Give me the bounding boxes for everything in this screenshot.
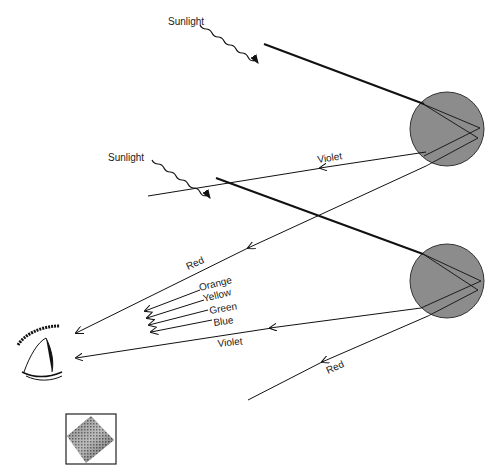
label-blue: Blue [213,314,235,328]
label-red-upper: Red [184,254,205,272]
sunlight-ray-mid [152,160,423,254]
red-ray-upper [248,166,426,248]
label-sunlight-mid: Sunlight [108,152,144,163]
label-green: Green [208,300,237,316]
label-red-lower: Red [324,358,345,376]
sunlight-ray-top [200,25,424,104]
observer-eye-icon [18,326,62,380]
label-sunlight-top: Sunlight [168,16,204,27]
label-violet-upper: Violet [317,150,343,165]
label-violet-lower: Violet [217,335,243,349]
raindrop-lower [410,244,484,318]
inset-diamond-icon [66,414,116,464]
red-ray-lower [322,316,428,362]
diagram-canvas: Sunlight Sunlight Violet Red Orange Yell… [0,0,499,475]
violet-ray-lower [270,308,421,328]
rainbow-diagram: Sunlight Sunlight Violet Red Orange Yell… [0,0,499,475]
